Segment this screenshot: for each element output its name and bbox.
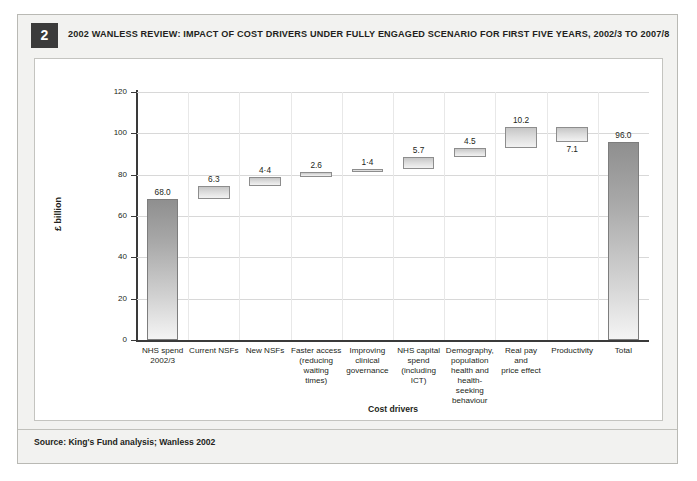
y-tick-label: 60: [87, 211, 127, 220]
y-tick-mark: [131, 92, 136, 93]
bar-value-label: 7.1: [542, 144, 602, 154]
footer-divider: [18, 429, 677, 430]
bar-9: [556, 127, 588, 142]
figure-title: 2002 WANLESS REVIEW: IMPACT OF COST DRIV…: [68, 29, 669, 39]
bar-3: [249, 177, 281, 186]
category-separator: [342, 92, 343, 340]
category-separator: [393, 92, 394, 340]
category-separator: [239, 92, 240, 340]
y-tick-mark: [131, 299, 136, 300]
x-category-label: Productivity: [547, 346, 598, 356]
x-axis-title: Cost drivers: [137, 404, 649, 414]
figure-card: 2 2002 WANLESS REVIEW: IMPACT OF COST DR…: [17, 14, 678, 464]
bar-10: [608, 142, 640, 340]
source-note: Source: King's Fund analysis; Wanless 20…: [34, 437, 215, 447]
bar-6: [403, 157, 435, 169]
y-tick-label: 80: [87, 170, 127, 179]
category-separator: [444, 92, 445, 340]
bar-1: [147, 199, 179, 340]
x-category-label: NHS capitalspend(includingICT): [393, 346, 444, 386]
category-separator: [188, 92, 189, 340]
bar-value-label: 10.2: [491, 115, 551, 125]
x-category-label: Demography,populationhealth andhealth-se…: [444, 346, 495, 406]
bar-value-label: 6.3: [184, 174, 244, 184]
x-category-label: Current NSFs: [188, 346, 239, 356]
bar-8: [505, 127, 537, 148]
y-tick-label: 0: [87, 335, 127, 344]
bar-2: [198, 186, 230, 199]
x-category-label: New NSFs: [239, 346, 290, 356]
bar-value-label: 1·4: [337, 157, 397, 167]
y-axis-title: £ billion: [53, 169, 63, 259]
y-tick-mark: [131, 340, 136, 341]
category-separator: [291, 92, 292, 340]
y-tick-label: 40: [87, 252, 127, 261]
figure-number-badge: 2: [31, 23, 58, 48]
plot-area: £ billion 02040608010012068.0NHS spend20…: [35, 59, 662, 420]
bar-4: [300, 172, 332, 177]
x-category-label: Improvingclinicalgovernance: [342, 346, 393, 376]
x-category-label: Faster access(reducingwaitingtimes): [291, 346, 342, 386]
bar-5: [352, 169, 384, 172]
category-separator: [547, 92, 548, 340]
bar-value-label: 96.0: [593, 130, 653, 140]
y-tick-label: 120: [87, 87, 127, 96]
y-tick-mark: [131, 216, 136, 217]
y-tick-mark: [131, 257, 136, 258]
x-category-label: NHS spend2002/3: [137, 346, 188, 366]
x-category-label: Total: [598, 346, 649, 356]
figure-header: 2 2002 WANLESS REVIEW: IMPACT OF COST DR…: [18, 15, 677, 51]
category-separator: [495, 92, 496, 340]
y-tick-mark: [131, 133, 136, 134]
bar-value-label: 68.0: [133, 187, 193, 197]
y-tick-label: 100: [87, 128, 127, 137]
x-category-label: Real payandprice effect: [495, 346, 546, 376]
x-axis: [136, 340, 649, 342]
chart-panel: £ billion 02040608010012068.0NHS spend20…: [34, 58, 663, 421]
y-tick-mark: [131, 175, 136, 176]
bar-value-label: 5.7: [389, 145, 449, 155]
bar-value-label: 4.5: [440, 136, 500, 146]
bar-7: [454, 148, 486, 157]
y-tick-label: 20: [87, 294, 127, 303]
